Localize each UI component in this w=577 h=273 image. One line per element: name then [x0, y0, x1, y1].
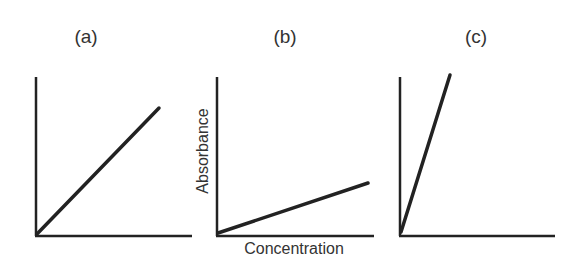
panel-b-x-axis-label: Concentration	[244, 240, 344, 257]
panel-b-y-axis-label: Absorbance	[194, 108, 211, 193]
panel-c-data-line	[401, 75, 450, 232]
panel-b: (b) Absorbance Concentration	[194, 26, 374, 257]
panel-a: (a)	[35, 26, 192, 236]
figure: (a) (b) Absorbance Concentration (c)	[0, 0, 577, 273]
panel-b-title: (b)	[273, 26, 296, 47]
panel-c-title: (c)	[465, 26, 487, 47]
panel-b-data-line	[218, 183, 368, 233]
panel-c: (c)	[399, 26, 555, 236]
panel-a-data-line	[37, 108, 159, 234]
panel-a-title: (a)	[74, 26, 97, 47]
